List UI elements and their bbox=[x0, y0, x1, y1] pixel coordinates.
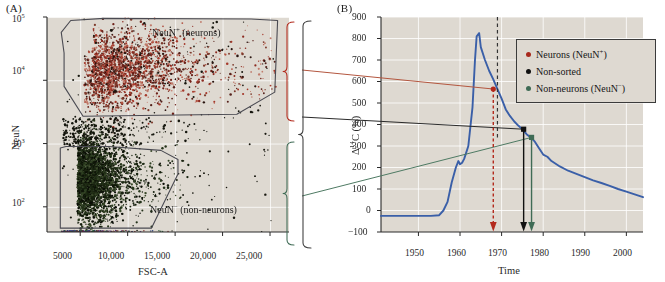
panel-b-ytick-neg100: −100 bbox=[348, 227, 368, 237]
panel-a-xtick-20000: 20,000 bbox=[190, 251, 216, 261]
bomb-curve-legend: Neurons (NeuN+) Non-sorted Non-neurons (… bbox=[516, 39, 656, 103]
panel-b-xtick-1990: 1990 bbox=[571, 248, 590, 258]
panel-a-x-axis-title: FSC-A bbox=[138, 266, 168, 277]
gate-label-neurons: NeuN+ (neurons) bbox=[152, 26, 221, 38]
panel-a-xtick-25000: 25,000 bbox=[236, 251, 262, 261]
panel-a-scatter-canvas bbox=[47, 17, 289, 232]
panel-b-y-rest: C (%) bbox=[350, 116, 361, 141]
panel-b-y-axis-title: Δ14C (%) bbox=[348, 116, 361, 155]
legend-non-sorted-label: Non-sorted bbox=[536, 66, 581, 77]
panel-a-ytick-1e4: 104 bbox=[12, 64, 25, 76]
panel-b-xtick-2000: 2000 bbox=[613, 248, 632, 258]
gate-label-neurons-text: NeuN bbox=[152, 27, 176, 38]
panel-a-xtick-5000: 5000 bbox=[53, 251, 72, 261]
panel-a-ytick-1e5: 105 bbox=[12, 12, 25, 24]
legend-neurons-label: Neurons (NeuN+) bbox=[536, 48, 607, 60]
legend-non-neurons-label: Non-neurons (NeuN−) bbox=[536, 82, 625, 94]
panel-b-xtick-1950: 1950 bbox=[405, 248, 424, 258]
legend-item-non-sorted: Non-sorted bbox=[524, 63, 648, 80]
panel-a-xtick-15000: 15,000 bbox=[144, 251, 170, 261]
panel-b-ytick-200: 200 bbox=[352, 162, 366, 172]
panel-b-ytick-700: 700 bbox=[352, 55, 366, 65]
panel-b-label: (B) bbox=[337, 2, 352, 14]
legend-item-non-neurons: Non-neurons (NeuN−) bbox=[524, 80, 648, 97]
legend-non-sorted-dot bbox=[526, 69, 531, 74]
gate-label-non-neurons-suffix: (non-neurons) bbox=[178, 204, 237, 215]
panel-b-x-axis-title: Time bbox=[498, 265, 520, 276]
figure-root: (A) 105 104 103 102 NeuN 5000 10,000 15,… bbox=[0, 0, 665, 282]
panel-b-y-sup: 14 bbox=[348, 141, 356, 148]
panel-b-y-delta: Δ bbox=[350, 148, 361, 155]
gate-label-non-neurons: NeuN− (non-neurons) bbox=[150, 203, 237, 215]
panel-b-xtick-1980: 1980 bbox=[530, 248, 549, 258]
panel-b-ytick-0: 0 bbox=[366, 205, 371, 215]
panel-a-y-axis-title: NeuN bbox=[10, 125, 21, 150]
legend-non-neurons-dot bbox=[526, 86, 531, 91]
gate-label-neurons-suffix: (neurons) bbox=[180, 27, 221, 38]
legend-item-neurons: Neurons (NeuN+) bbox=[524, 46, 648, 63]
legend-neurons-dot bbox=[526, 52, 531, 57]
panel-b-ytick-500: 500 bbox=[352, 98, 366, 108]
panel-a-ytick-1e2: 102 bbox=[12, 196, 25, 208]
panel-b-ytick-100: 100 bbox=[352, 184, 366, 194]
panel-b-ytick-600: 600 bbox=[352, 76, 366, 86]
gate-label-non-neurons-text: NeuN bbox=[150, 204, 174, 215]
brace-non-sorted bbox=[299, 21, 311, 248]
panel-b-xtick-1960: 1960 bbox=[447, 248, 466, 258]
panel-a-xtick-10000: 10,000 bbox=[98, 251, 124, 261]
panel-b-xtick-1970: 1970 bbox=[488, 248, 507, 258]
panel-b-ytick-900: 900 bbox=[352, 12, 366, 22]
panel-b-ytick-800: 800 bbox=[352, 33, 366, 43]
